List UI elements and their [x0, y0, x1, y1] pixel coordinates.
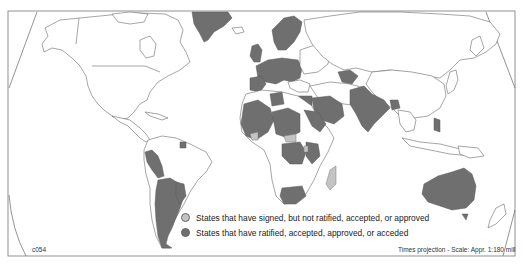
tasmania [462, 214, 468, 220]
projection-scale-note: Times projection - Scale: Appr. 1:180 mi… [398, 246, 516, 253]
japan [446, 70, 458, 94]
philippines [434, 118, 440, 132]
ratified-swatch-icon [181, 228, 190, 237]
greenland [192, 12, 232, 42]
scandinavia [272, 16, 302, 50]
signed-swatch-icon [181, 213, 190, 222]
legend-item-signed: States that have signed, but not ratifie… [181, 211, 429, 224]
central-asia [338, 70, 358, 84]
map-code: c054 [32, 246, 46, 253]
legend-label-signed: States that have signed, but not ratifie… [196, 213, 429, 223]
legend-label-ratified: States that have ratified, accepted, app… [196, 228, 408, 238]
projection-edge-left-bottom [9, 195, 26, 256]
uk-ireland [250, 44, 262, 62]
balkans [288, 80, 310, 92]
new-zealand [488, 204, 506, 228]
madagascar [326, 166, 336, 190]
legend-item-ratified: States that have ratified, accepted, app… [181, 226, 429, 239]
bangladesh [390, 100, 400, 110]
sahel [272, 108, 300, 138]
map-legend: States that have signed, but not ratifie… [181, 211, 429, 241]
caribbean [145, 112, 168, 120]
russia [304, 12, 500, 78]
australia [422, 168, 476, 210]
central-america [112, 116, 150, 142]
guyana-small [180, 142, 186, 148]
south-africa [280, 186, 306, 204]
new-guinea [458, 146, 484, 158]
projection-edge-left-top [9, 12, 37, 88]
signed-east-small [304, 146, 308, 152]
north-africa [270, 92, 284, 106]
iceland [232, 27, 244, 34]
